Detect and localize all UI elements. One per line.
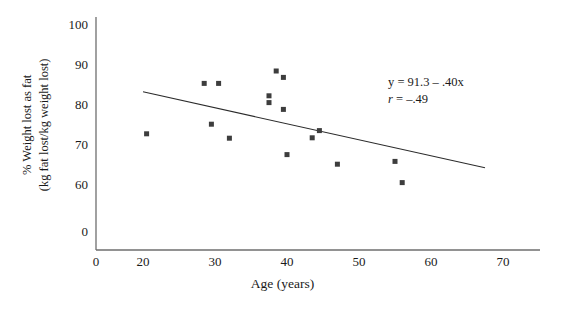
x-tick-60: 60: [425, 254, 438, 270]
y-tick-100: 100: [69, 17, 89, 33]
x-axis-label: Age (years): [0, 276, 565, 292]
data-point: [227, 136, 232, 141]
data-point: [400, 180, 405, 185]
data-point: [267, 93, 272, 98]
y-tick-0: 0: [82, 224, 89, 240]
axes: [96, 17, 540, 250]
data-point: [335, 162, 340, 167]
data-point: [281, 107, 286, 112]
data-point: [285, 152, 290, 157]
x-tick-50: 50: [353, 254, 366, 270]
data-point: [267, 100, 272, 105]
data-point: [317, 128, 322, 133]
y-tick-80: 80: [75, 97, 88, 113]
y-axis-label-line2: (kg fat lost/kg weight lost): [36, 59, 53, 192]
scatter-plot-figure: 060708090100 0203040506070 % Weight lost…: [0, 0, 565, 309]
data-point: [310, 135, 315, 140]
data-point: [216, 81, 221, 86]
data-point: [202, 81, 207, 86]
data-point: [281, 75, 286, 80]
correlation-value: = –.49: [393, 92, 428, 106]
y-axis-label-line1: % Weight lost as fat: [19, 59, 36, 192]
data-point: [393, 159, 398, 164]
data-point: [274, 69, 279, 74]
y-tick-70: 70: [75, 137, 88, 153]
x-tick-70: 70: [497, 254, 510, 270]
regression-equation: y = 91.3 – .40x: [388, 74, 464, 91]
y-tick-90: 90: [75, 57, 88, 73]
data-point: [144, 131, 149, 136]
x-tick-30: 30: [209, 254, 222, 270]
data-points: [144, 69, 405, 186]
y-tick-60: 60: [75, 177, 88, 193]
x-tick-0: 0: [93, 254, 100, 270]
x-tick-40: 40: [281, 254, 294, 270]
data-point: [209, 122, 214, 127]
regression-annotation: y = 91.3 – .40x r = –.49: [388, 74, 464, 108]
correlation-coefficient: r = –.49: [388, 91, 464, 108]
x-tick-20: 20: [137, 254, 150, 270]
y-axis-label: % Weight lost as fat (kg fat lost/kg wei…: [8, 0, 64, 250]
